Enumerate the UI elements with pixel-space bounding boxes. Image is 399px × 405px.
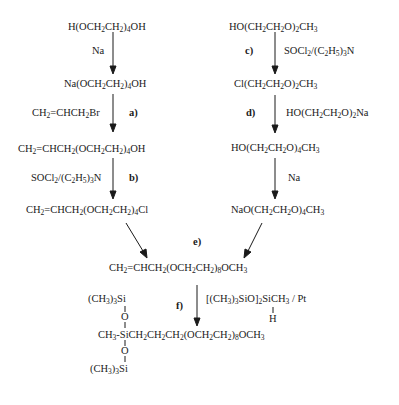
reagent-heptamethyltrisiloxane: [(CH3)3SiO]2SiCH3 / Pt [206, 293, 306, 305]
compound-tetraethylene-glycol: H(OCH2CH2)4OH [68, 21, 146, 33]
trimethylsilyl-bottom: (CH3)3Si [90, 363, 128, 375]
step-label-b: b) [129, 172, 138, 184]
final-product-trisiloxane-peg: CH3-SiCH2CH2CH2(OCH2CH2)8OCH3 [98, 329, 265, 341]
reagent-na-left: Na [92, 45, 104, 57]
step-label-d: d) [246, 107, 255, 119]
compound-allyl-peg-methyl-ether: CH2=CHCH2(OCH2CH2)8OCH3 [109, 262, 247, 274]
reagent-hydride-h: H [269, 313, 277, 325]
reagent-na-right: Na [288, 172, 300, 184]
reagent-thionyl-chloride-right: SOCl2/(C2H5)3N [284, 45, 354, 57]
compound-diethylene-glycol-methyl-ether: HO(CH2CH2O)2CH3 [229, 21, 318, 33]
reagent-thionyl-chloride-left: SOCl2/(C2H5)3N [31, 172, 101, 184]
reagent-allyl-bromide: CH2=CHCH2Br [32, 107, 100, 119]
compound-allyl-glycol: CH2=CHCH2(OCH2CH2)4OH [18, 143, 145, 155]
step-label-a: a) [129, 107, 138, 119]
compound-sodium-glycolate: Na(OCH2CH2)4OH [64, 78, 146, 90]
step-label-c: c) [245, 45, 253, 57]
trimethylsilyl-top: (CH3)3Si [88, 293, 126, 305]
reaction-arrows [0, 0, 399, 405]
oxygen-bottom: O [121, 345, 129, 357]
oxygen-top: O [121, 311, 129, 323]
compound-tetraethylene-glycol-methyl-ether: HO(CH2CH2O)4CH3 [231, 142, 320, 154]
compound-allyl-chloride-glycol: CH2=CHCH2(OCH2CH2)4Cl [26, 204, 148, 216]
step-label-f: f) [176, 300, 183, 312]
step-label-e: e) [193, 236, 201, 248]
reagent-sodium-glycolate: HO(CH2CH2O)2Na [286, 107, 368, 119]
compound-chloro-ether: Cl(CH2CH2O)2CH3 [234, 78, 317, 90]
compound-sodium-alkoxide: NaO(CH2CH2O)4CH3 [231, 204, 324, 216]
